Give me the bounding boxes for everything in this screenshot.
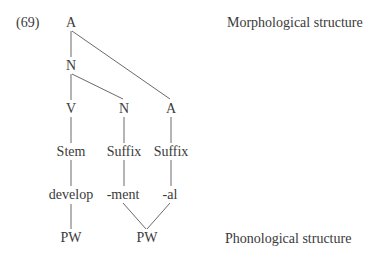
- morphological-structure-label: Morphological structure: [227, 15, 363, 31]
- word-develop: develop: [49, 187, 93, 203]
- node-a-suffix: A: [166, 101, 176, 117]
- node-root-a: A: [66, 15, 76, 31]
- node-v: V: [66, 101, 76, 117]
- node-suffix-ment: Suffix: [107, 144, 142, 160]
- tree-edges: [0, 0, 387, 258]
- example-number: (69): [16, 15, 39, 31]
- node-n: N: [66, 58, 76, 74]
- node-suffix-al: Suffix: [154, 144, 189, 160]
- node-pw-2: PW: [137, 230, 158, 246]
- word-ment: -ment: [107, 187, 140, 203]
- phonological-structure-label: Phonological structure: [225, 231, 351, 247]
- node-n-suffix: N: [119, 101, 129, 117]
- word-al: -al: [163, 187, 178, 203]
- node-pw-1: PW: [61, 230, 82, 246]
- node-stem: Stem: [57, 144, 86, 160]
